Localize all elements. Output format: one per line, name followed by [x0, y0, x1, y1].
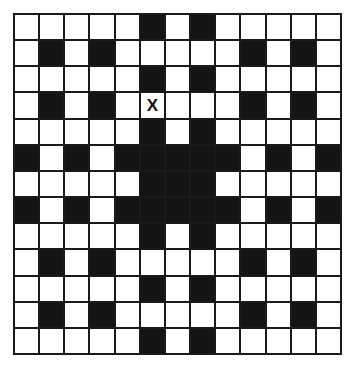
grid-cell[interactable]: [65, 303, 88, 327]
grid-cell[interactable]: [317, 172, 340, 196]
grid-cell[interactable]: [15, 172, 38, 196]
grid-cell[interactable]: [241, 329, 264, 353]
grid-cell[interactable]: [216, 41, 239, 65]
grid-cell[interactable]: [292, 277, 315, 301]
grid-cell[interactable]: [65, 15, 88, 39]
grid-cell[interactable]: [65, 41, 88, 65]
grid-cell[interactable]: [166, 224, 189, 248]
grid-cell[interactable]: [216, 67, 239, 91]
grid-cell[interactable]: [241, 67, 264, 91]
grid-cell[interactable]: [141, 303, 164, 327]
grid-cell[interactable]: [90, 15, 113, 39]
grid-cell[interactable]: [216, 277, 239, 301]
grid-cell[interactable]: [166, 303, 189, 327]
grid-cell[interactable]: [116, 277, 139, 301]
grid-cell[interactable]: [216, 329, 239, 353]
grid-cell[interactable]: [241, 146, 264, 170]
grid-cell[interactable]: [267, 120, 290, 144]
grid-cell[interactable]: [90, 329, 113, 353]
grid-cell[interactable]: [267, 250, 290, 274]
grid-cell[interactable]: [40, 15, 63, 39]
grid-cell[interactable]: [15, 67, 38, 91]
grid-cell[interactable]: [65, 120, 88, 144]
grid-cell[interactable]: [166, 329, 189, 353]
grid-cell[interactable]: [166, 277, 189, 301]
grid-cell[interactable]: [65, 250, 88, 274]
grid-cell[interactable]: [241, 172, 264, 196]
grid-cell[interactable]: [292, 224, 315, 248]
grid-cell[interactable]: [292, 120, 315, 144]
grid-cell[interactable]: [267, 303, 290, 327]
grid-cell[interactable]: [267, 15, 290, 39]
grid-cell[interactable]: [90, 224, 113, 248]
grid-cell[interactable]: [216, 172, 239, 196]
grid-cell[interactable]: [116, 41, 139, 65]
grid-cell[interactable]: [216, 303, 239, 327]
grid-cell[interactable]: [65, 224, 88, 248]
grid-cell[interactable]: [65, 93, 88, 117]
grid-cell[interactable]: [267, 224, 290, 248]
grid-cell[interactable]: [241, 277, 264, 301]
grid-cell[interactable]: [216, 93, 239, 117]
grid-cell[interactable]: [317, 15, 340, 39]
grid-cell[interactable]: [166, 41, 189, 65]
grid-cell[interactable]: [191, 303, 214, 327]
grid-cell[interactable]: [40, 67, 63, 91]
grid-cell[interactable]: [141, 250, 164, 274]
grid-cell[interactable]: [166, 120, 189, 144]
grid-cell[interactable]: [191, 41, 214, 65]
grid-cell[interactable]: [65, 277, 88, 301]
grid-cell[interactable]: [116, 67, 139, 91]
grid-cell[interactable]: [15, 329, 38, 353]
grid-cell[interactable]: [166, 15, 189, 39]
grid-cell[interactable]: [65, 329, 88, 353]
grid-cell[interactable]: [141, 41, 164, 65]
grid-cell[interactable]: [317, 120, 340, 144]
grid-cell[interactable]: [116, 329, 139, 353]
grid-cell[interactable]: [267, 329, 290, 353]
grid-cell[interactable]: [267, 277, 290, 301]
grid-cell[interactable]: [90, 172, 113, 196]
grid-cell[interactable]: [116, 93, 139, 117]
grid-cell[interactable]: [15, 250, 38, 274]
grid-cell[interactable]: [317, 41, 340, 65]
grid-cell[interactable]: [116, 224, 139, 248]
grid-cell[interactable]: [90, 277, 113, 301]
grid-cell[interactable]: [166, 67, 189, 91]
grid-cell[interactable]: [116, 120, 139, 144]
grid-cell[interactable]: [317, 277, 340, 301]
grid-cell[interactable]: X: [141, 93, 164, 117]
grid-cell[interactable]: [40, 329, 63, 353]
grid-cell[interactable]: [317, 224, 340, 248]
grid-cell[interactable]: [15, 41, 38, 65]
grid-cell[interactable]: [191, 93, 214, 117]
grid-cell[interactable]: [267, 93, 290, 117]
grid-cell[interactable]: [90, 67, 113, 91]
grid-cell[interactable]: [317, 329, 340, 353]
grid-cell[interactable]: [292, 15, 315, 39]
grid-cell[interactable]: [15, 93, 38, 117]
grid-cell[interactable]: [40, 224, 63, 248]
grid-cell[interactable]: [292, 172, 315, 196]
grid-cell[interactable]: [40, 172, 63, 196]
grid-cell[interactable]: [317, 250, 340, 274]
grid-cell[interactable]: [292, 146, 315, 170]
grid-cell[interactable]: [65, 172, 88, 196]
grid-cell[interactable]: [90, 198, 113, 222]
grid-cell[interactable]: [90, 120, 113, 144]
grid-cell[interactable]: [216, 250, 239, 274]
grid-cell[interactable]: [65, 67, 88, 91]
grid-cell[interactable]: [191, 250, 214, 274]
grid-cell[interactable]: [216, 15, 239, 39]
grid-cell[interactable]: [40, 198, 63, 222]
grid-cell[interactable]: [317, 93, 340, 117]
grid-cell[interactable]: [267, 172, 290, 196]
grid-cell[interactable]: [317, 303, 340, 327]
grid-cell[interactable]: [292, 67, 315, 91]
grid-cell[interactable]: [216, 120, 239, 144]
grid-cell[interactable]: [116, 303, 139, 327]
grid-cell[interactable]: [241, 198, 264, 222]
grid-cell[interactable]: [292, 198, 315, 222]
grid-cell[interactable]: [15, 224, 38, 248]
grid-cell[interactable]: [116, 15, 139, 39]
